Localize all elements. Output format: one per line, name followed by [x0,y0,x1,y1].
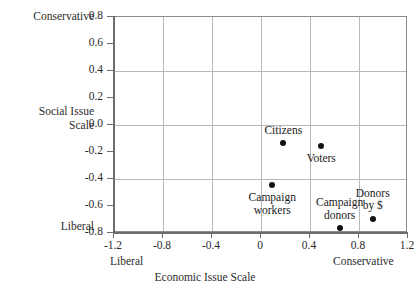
y-axis-tick-label: -0.4 [85,171,103,183]
y-axis-title-line1: Social Issue [8,105,94,119]
gridline-vertical [310,17,311,231]
data-point-label-line: Campaign [249,191,296,204]
x-axis-tick-label: -0.4 [202,239,220,251]
y-axis-tick-label: 0.2 [89,90,103,102]
data-point-marker [337,225,343,231]
y-axis-tick-label: 0.6 [89,36,103,48]
x-axis-tick-label: -0.8 [153,239,171,251]
gridline-vertical [163,17,164,231]
x-axis-tick [211,233,212,238]
gridline-horizontal [114,71,406,72]
x-axis-tick-label: 0 [257,239,263,251]
gridline-vertical [212,17,213,231]
data-point-label: Citizens [264,124,302,137]
x-axis-tick [358,233,359,238]
data-point-label-line: by $ [356,199,390,212]
x-axis-tick-label: -1.2 [104,239,122,251]
y-axis-spine [113,16,115,233]
data-point-label: Donorsby $ [356,187,390,213]
x-axis-left-anchor: Liberal [110,255,143,267]
data-point-marker [269,182,275,188]
data-point-label-line: Citizens [264,124,302,137]
y-axis-tick [107,124,113,125]
y-axis-title: Social Issue Scale [8,105,94,132]
y-axis-tick [107,70,113,71]
y-axis-tick-label: 0.4 [89,63,103,75]
y-axis-title-line2: Scale [8,119,94,133]
data-point-marker [318,143,324,149]
x-axis-tick-label: 1.2 [400,239,414,251]
x-axis-title: Economic Issue Scale [155,271,256,283]
x-axis-right-anchor: Conservative [333,255,394,267]
x-axis-tick [407,233,408,238]
data-point-label-line: workers [249,204,296,217]
y-axis-bottom-anchor: Liberal [8,220,94,234]
data-point-label: Campaignworkers [249,191,296,217]
y-axis-tick [107,205,113,206]
data-point-label-line: Donors [356,187,390,200]
y-axis-tick [107,97,113,98]
x-axis-tick [260,233,261,238]
y-axis-tick [107,178,113,179]
scatter-plot-figure: 0.80.60.40.20.0-0.2-0.4-0.6-0.8-1.2-0.8-… [0,0,418,289]
y-axis-tick-label: -0.2 [85,144,103,156]
y-axis-tick [107,16,113,17]
x-axis-tick-label: 0.4 [302,239,316,251]
x-axis-tick [309,233,310,238]
data-point-marker [370,216,376,222]
y-axis-top-anchor: Conservative [8,10,94,24]
y-axis-tick [107,43,113,44]
gridline-horizontal [114,125,406,126]
data-point-label-line: Voters [307,152,336,165]
y-axis-tick-label: -0.6 [85,198,103,210]
gridline-horizontal [114,179,406,180]
x-axis-tick-label: 0.8 [351,239,365,251]
y-axis-tick [107,151,113,152]
x-axis-tick [113,233,114,238]
data-point-label: Voters [307,152,336,165]
x-axis-tick [162,233,163,238]
